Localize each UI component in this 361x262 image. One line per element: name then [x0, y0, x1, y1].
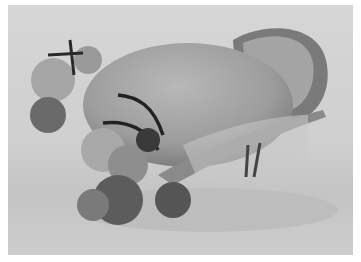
flower-front-right: [155, 182, 191, 218]
hat-illustration: [8, 5, 353, 255]
flower-left-shadow: [30, 97, 66, 133]
flower-front-left: [77, 189, 109, 221]
hat-photo: [8, 5, 353, 255]
flower-left-top: [74, 46, 102, 74]
feather-cluster: [136, 128, 160, 152]
flower-left: [31, 58, 75, 102]
